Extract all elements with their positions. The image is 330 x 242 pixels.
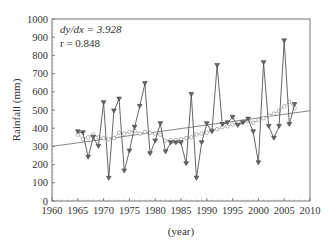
- annual-rainfall-series: [75, 39, 297, 180]
- annual-point: [137, 104, 142, 108]
- annual-point: [117, 97, 122, 101]
- annual-point: [86, 155, 91, 159]
- average-point: [112, 136, 116, 140]
- y-tick-label: 1000: [27, 14, 48, 25]
- average-point: [159, 133, 163, 137]
- annual-point: [189, 93, 194, 97]
- x-axis-title: (year): [168, 225, 195, 238]
- x-tick-label: 1995: [222, 205, 243, 216]
- average-point: [179, 137, 183, 141]
- average-point: [190, 136, 194, 140]
- annual-point: [199, 141, 204, 145]
- average-point: [215, 127, 219, 131]
- average-point: [102, 136, 106, 140]
- y-tick-label: 600: [32, 86, 48, 97]
- y-tick-label: 0: [43, 196, 48, 207]
- average-point: [138, 132, 142, 136]
- average-point: [143, 130, 147, 134]
- y-tick-label: 100: [32, 177, 48, 188]
- average-point: [251, 121, 255, 125]
- annual-point: [251, 130, 256, 134]
- average-point: [282, 105, 286, 109]
- average-point: [195, 133, 199, 137]
- average-point: [128, 130, 132, 134]
- annual-point: [184, 162, 189, 166]
- annual-point: [142, 82, 147, 86]
- annual-point: [215, 63, 220, 67]
- x-tick-label: 1965: [67, 205, 88, 216]
- annual-point: [106, 176, 111, 180]
- annual-point: [210, 130, 215, 134]
- y-tick-label: 300: [32, 141, 48, 152]
- x-tick-label: 2010: [300, 205, 321, 216]
- y-tick-label: 200: [32, 159, 48, 170]
- y-tick-label: 500: [32, 105, 48, 116]
- annual-point: [127, 149, 132, 153]
- rainfall-chart: 1960196519701975198019851990199520002005…: [0, 0, 330, 242]
- annual-point: [132, 125, 137, 129]
- annual-point: [163, 150, 168, 154]
- annual-point: [148, 152, 153, 156]
- annual-point: [287, 123, 292, 127]
- average-point: [86, 136, 90, 140]
- annual-point: [112, 109, 117, 113]
- annual-point: [271, 136, 276, 140]
- y-tick-label: 700: [32, 68, 48, 79]
- annual-point: [266, 124, 271, 128]
- average-point: [257, 118, 261, 122]
- average-point: [262, 116, 266, 120]
- annual-point: [282, 39, 287, 43]
- slope-annotation: dy/dx = 3.928: [60, 23, 122, 35]
- average-point: [153, 132, 157, 136]
- y-axis-title: Rainfall (mm): [10, 78, 23, 141]
- x-tick-label: 1975: [119, 205, 140, 216]
- annual-point: [256, 161, 261, 165]
- average-point: [231, 123, 235, 127]
- annual-point: [235, 123, 240, 127]
- average-point: [107, 137, 111, 141]
- y-axis-ticks: 01002003004005006007008009001000: [27, 14, 55, 207]
- annual-point: [277, 124, 282, 128]
- annual-point: [261, 61, 266, 65]
- x-tick-label: 1980: [145, 205, 166, 216]
- x-tick-label: 2000: [248, 205, 269, 216]
- x-tick-label: 1985: [171, 205, 192, 216]
- average-point: [117, 131, 121, 135]
- annual-point: [101, 101, 106, 105]
- annual-point: [96, 144, 101, 148]
- average-point: [205, 131, 209, 135]
- annual-point: [153, 139, 158, 143]
- annual-point: [158, 122, 163, 126]
- x-tick-label: 1960: [42, 205, 63, 216]
- annual-point: [91, 135, 96, 139]
- x-tick-label: 2005: [274, 205, 295, 216]
- x-tick-label: 1990: [196, 205, 217, 216]
- annual-point: [194, 176, 199, 180]
- y-tick-label: 800: [32, 50, 48, 61]
- correlation-annotation: r = 0.848: [60, 37, 101, 49]
- average-point: [122, 132, 126, 136]
- y-tick-label: 400: [32, 123, 48, 134]
- average-point: [272, 112, 276, 116]
- x-tick-label: 1970: [93, 205, 114, 216]
- moving-average-series: [76, 100, 296, 143]
- y-tick-label: 900: [32, 32, 48, 43]
- average-point: [184, 136, 188, 140]
- annual-point: [122, 169, 127, 173]
- average-point: [200, 132, 204, 136]
- average-point: [164, 139, 168, 143]
